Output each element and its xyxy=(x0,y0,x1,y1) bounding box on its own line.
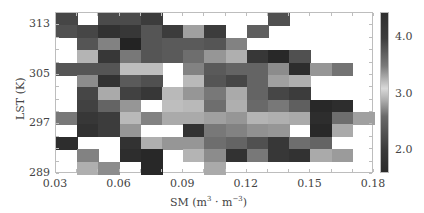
heatmap-cell xyxy=(120,100,142,113)
x-axis-title: SM (m3 · m−3) xyxy=(170,195,247,209)
heatmap-cell xyxy=(247,87,269,100)
heatmap-cell xyxy=(332,149,354,162)
heatmap-cell xyxy=(268,112,290,125)
x-axis-title-base: SM (m xyxy=(170,196,207,209)
heatmap-cell xyxy=(141,50,163,63)
heatmap-cell xyxy=(204,25,226,38)
heatmap-cell xyxy=(247,137,269,150)
heatmap-cell xyxy=(289,112,311,125)
heatmap-cell xyxy=(141,63,163,76)
heatmap-cell xyxy=(77,63,99,76)
heatmap-cell xyxy=(268,100,290,113)
heatmap-cell xyxy=(204,149,226,162)
heatmap-cell xyxy=(183,38,205,51)
y-tick-mark xyxy=(369,74,372,75)
heatmap-cell xyxy=(268,75,290,88)
heatmap-cell xyxy=(56,137,78,150)
heatmap-cell xyxy=(56,13,78,26)
x-tick-mark xyxy=(225,169,226,172)
colorbar xyxy=(380,12,389,173)
heatmap-cell xyxy=(226,137,248,150)
heatmap-cell xyxy=(141,87,163,100)
heatmap-cell xyxy=(268,137,290,150)
y-tick-mark xyxy=(56,161,59,162)
y-tick-mark xyxy=(56,12,59,13)
heatmap-cell xyxy=(120,124,142,137)
heatmap-cell xyxy=(289,87,311,100)
heatmap-cell xyxy=(98,100,120,113)
x-axis-title-exp2: −3 xyxy=(232,195,242,203)
heatmap-cell xyxy=(141,13,163,26)
heatmap-cell xyxy=(120,13,142,26)
x-tick-label: 0.12 xyxy=(226,178,266,189)
x-tick-mark xyxy=(352,169,353,172)
heatmap-cell xyxy=(162,137,184,150)
y-tick-mark xyxy=(369,49,372,50)
heatmap-cell xyxy=(310,100,332,113)
y-tick-mark xyxy=(369,148,372,149)
heatmap-cell xyxy=(268,63,290,76)
y-tick-mark xyxy=(56,62,59,63)
y-tick-mark xyxy=(369,123,372,124)
x-tick-label: 0.09 xyxy=(162,178,202,189)
heatmap-cell xyxy=(204,137,226,150)
x-tick-label: 0.15 xyxy=(289,178,329,189)
y-tick-mark xyxy=(56,37,59,38)
y-tick-mark xyxy=(369,37,372,38)
x-tick-mark xyxy=(76,13,77,16)
heatmap-cell xyxy=(226,38,248,51)
x-tick-mark xyxy=(161,169,162,172)
heatmap-cell xyxy=(247,75,269,88)
heatmap-cell xyxy=(289,63,311,76)
heatmap-cell xyxy=(77,50,99,63)
heatmap-cell xyxy=(98,63,120,76)
heatmap-cell xyxy=(141,137,163,150)
heatmap-cell xyxy=(226,149,248,162)
heatmap-cell xyxy=(226,63,248,76)
heatmap-cell xyxy=(247,124,269,137)
heatmap-cell xyxy=(183,50,205,63)
heatmap-cell xyxy=(77,149,99,162)
heatmap-cell xyxy=(120,75,142,88)
y-tick-mark xyxy=(56,173,59,174)
x-tick-mark xyxy=(119,169,120,172)
heatmap-cell xyxy=(268,87,290,100)
x-tick-label: 0.18 xyxy=(353,178,393,189)
x-tick-mark xyxy=(373,169,374,172)
x-tick-mark xyxy=(246,13,247,16)
heatmap-cell xyxy=(289,149,311,162)
heatmap-cell xyxy=(98,112,120,125)
heatmap-cell xyxy=(226,124,248,137)
heatmap-cell xyxy=(141,38,163,51)
x-tick-mark xyxy=(203,13,204,16)
y-tick-mark xyxy=(369,24,372,25)
heatmap-cell xyxy=(162,25,184,38)
x-tick-mark xyxy=(182,169,183,172)
x-tick-mark xyxy=(182,13,183,16)
y-tick-mark xyxy=(56,24,59,25)
heatmap-cell xyxy=(204,75,226,88)
heatmap-cell xyxy=(77,124,99,137)
x-tick-mark xyxy=(225,13,226,16)
x-axis-title-mid: · m xyxy=(212,196,233,209)
heatmap-cell xyxy=(162,50,184,63)
heatmap-cell xyxy=(226,112,248,125)
heatmap-cell xyxy=(183,124,205,137)
heatmap-cell xyxy=(183,75,205,88)
heatmap-cell xyxy=(247,50,269,63)
heatmap-cell xyxy=(56,25,78,38)
x-tick-mark xyxy=(97,169,98,172)
x-tick-mark xyxy=(331,169,332,172)
x-tick-mark xyxy=(331,13,332,16)
heatmap-cell xyxy=(98,87,120,100)
heatmap-cell xyxy=(77,100,99,113)
heatmap-cell xyxy=(226,75,248,88)
y-tick-mark xyxy=(369,173,372,174)
y-tick-mark xyxy=(56,148,59,149)
heatmap-cell xyxy=(98,75,120,88)
x-tick-mark xyxy=(140,169,141,172)
heatmap-cell xyxy=(98,25,120,38)
x-tick-mark xyxy=(55,169,56,172)
y-tick-mark xyxy=(369,12,372,13)
heatmap-cell xyxy=(183,25,205,38)
